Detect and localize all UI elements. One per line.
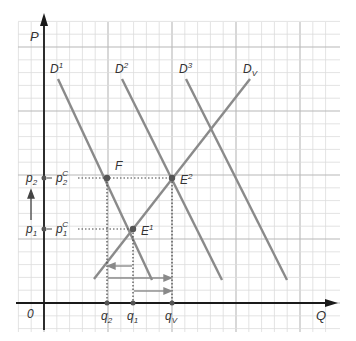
label-p1c: p1C [55,220,68,238]
label-e2: E2 [180,172,193,187]
label-p2: p2 [25,171,38,187]
label-q1: q1 [127,309,138,325]
x-axis-arrow-icon [325,299,338,307]
label-p2c: p2C [55,169,68,187]
point-f [104,175,110,181]
label-qv: qV [165,309,178,325]
x-axis-label: Q [316,308,326,323]
quantity-labels: q2 q1 qV [101,309,178,325]
y-axis-label: P [30,29,39,44]
label-d1: D1 [50,61,63,76]
tick-p2 [42,176,47,181]
tick-q2 [105,301,110,306]
arrow-up-icon [28,190,34,198]
label-f: F [115,159,123,173]
price-rise-arrow [28,190,34,220]
arrow-left-icon [108,263,115,269]
point-e1 [130,226,136,232]
origin-label: 0 [27,307,34,321]
y-axis-arrow-icon [40,13,48,26]
curve-labels: D1 D2 D3 DV [50,61,258,78]
label-dv: DV [243,62,258,78]
tick-q1 [131,301,136,306]
label-d2: D2 [115,61,129,76]
label-p1: p1 [25,222,37,238]
label-d3: D3 [179,61,193,76]
arrow-right-icon [164,275,171,281]
arrow-right-icon [164,288,171,294]
tick-qv [170,301,175,306]
label-q2: q2 [101,309,113,325]
tick-p1 [42,227,47,232]
point-e2 [169,175,175,181]
quantity-arrows [108,263,171,294]
label-e1: E1 [141,223,153,238]
economics-diagram: P Q 0 D1 D2 D3 DV F E2 E1 p2 p1 p2C p1C … [0,0,356,341]
